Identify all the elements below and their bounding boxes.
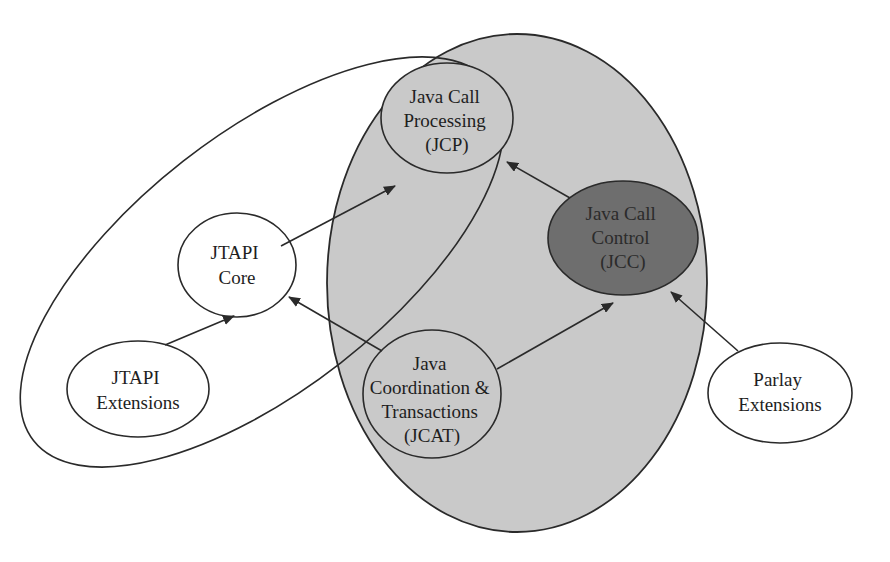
node-jcp[interactable]: Java Call Processing (JCP) [381,63,513,173]
parlay-extensions-label-line-1: Parlay [753,369,802,390]
edge-jtapi-ext-to-core [165,316,234,345]
jtapi-extensions-label-line-2: Extensions [96,392,179,413]
jcp-label-line-2: Processing [403,110,486,131]
jtapi-core-label-line-1: JTAPI [211,242,259,263]
jcat-label-line-3: Transactions [381,401,477,422]
node-jcat[interactable]: Java Coordination & Transactions (JCAT) [363,330,501,458]
jcc-label-line-2: Control [592,227,650,248]
jtapi-core-label-line-2: Core [219,267,256,288]
node-jtapi-core[interactable]: JTAPI Core [178,213,296,317]
parlay-extensions-label-line-2: Extensions [738,394,821,415]
jtapi-extensions-label-line-1: JTAPI [112,367,160,388]
jcat-label-line-2: Coordination & [370,377,490,398]
node-jcc[interactable]: Java Call Control (JCC) [548,181,698,295]
jtapi-extensions-ellipse [67,341,209,437]
jtapi-core-ellipse [178,213,296,317]
node-parlay-extensions[interactable]: Parlay Extensions [708,343,852,443]
parlay-extensions-ellipse [708,343,852,443]
jcp-label-line-1: Java Call [410,86,480,107]
jcp-label-line-3: (JCP) [425,134,468,156]
jcat-label-line-4: (JCAT) [404,425,460,447]
node-jtapi-extensions[interactable]: JTAPI Extensions [67,341,209,437]
api-diagram: Java Call Processing (JCP) Java Call Con… [0,0,890,562]
jcc-label-line-1: Java Call [586,203,656,224]
jcat-label-line-1: Java [413,353,447,374]
jcc-label-line-3: (JCC) [600,251,645,273]
